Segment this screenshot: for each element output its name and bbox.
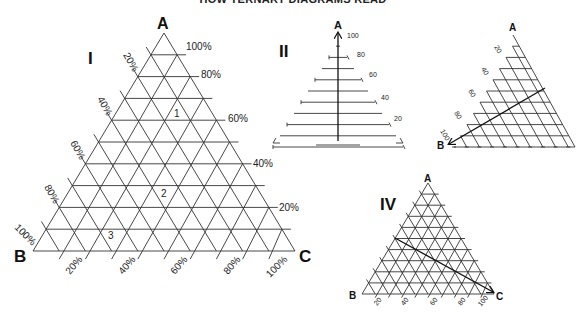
ii-tick-20: 20 <box>394 115 402 122</box>
grid-line <box>164 142 230 259</box>
ii-tick-100: 100 <box>347 32 359 39</box>
b-tick-20: 20% <box>121 51 141 74</box>
point-3: 3 <box>108 230 114 241</box>
grid-line <box>388 205 441 297</box>
c-tick-20: 20% <box>63 254 84 276</box>
iv-tick-80: 80 <box>456 296 466 307</box>
grid-line <box>400 138 403 143</box>
ii-tick-60: 60 <box>369 71 377 78</box>
grid-line <box>375 100 377 104</box>
ii-tick-80: 80 <box>357 51 365 58</box>
grid-line <box>419 191 480 294</box>
grid-line <box>94 134 164 251</box>
panel-iii: A B 20 40 60 80 100 <box>437 22 575 151</box>
grid-line <box>403 145 405 149</box>
point-1: 1 <box>174 108 180 119</box>
panel-i-label: I <box>88 49 93 68</box>
panel-iv-vertex-a: A <box>424 173 431 184</box>
grid-line <box>400 224 442 294</box>
iii-tick-80: 80 <box>453 110 463 120</box>
grid-line <box>68 178 112 251</box>
b-tick-100: 100% <box>13 222 39 248</box>
grid-line <box>41 221 59 251</box>
panel-iv: IV A B C 20 40 60 80 100 <box>349 173 503 308</box>
vertex-c-label: C <box>299 247 311 266</box>
grid-line <box>273 138 276 143</box>
panel-iv-vertex-b: B <box>349 290 356 301</box>
grid-line <box>361 78 363 82</box>
grid-line <box>513 46 569 147</box>
grid-line <box>413 202 468 294</box>
panel-i: I A B C 100% 80% 60% 40% 20% 20% 40% 60%… <box>13 15 312 279</box>
grid-line <box>367 279 376 294</box>
b-tick-40: 40% <box>95 95 115 118</box>
a-tick-60: 60% <box>228 113 248 124</box>
panel-iii-vertex-a: A <box>509 22 516 33</box>
iv-tick-100: 100 <box>476 294 489 308</box>
a-tick-20: 20% <box>279 202 299 213</box>
panel-iv-label: IV <box>380 195 397 214</box>
vertex-b-label: B <box>14 247 26 266</box>
grid-line <box>380 257 402 294</box>
ii-tick-40: 40 <box>381 94 389 101</box>
iii-tick-60: 60 <box>467 88 477 98</box>
iv-tick-60: 60 <box>428 296 438 307</box>
grid-line <box>107 112 190 251</box>
panel-iii-vertex-b: B <box>437 140 444 151</box>
grid-line <box>428 239 461 298</box>
point-2: 2 <box>161 188 167 199</box>
a-tick-80: 80% <box>201 69 221 80</box>
grid-line <box>138 120 217 259</box>
grid-line <box>112 98 204 259</box>
ternary-diagrams-figure: I A B C 100% 80% 60% 40% 20% 20% 40% 60%… <box>0 0 586 319</box>
b-tick-60: 60% <box>68 139 88 162</box>
iv-tick-40: 40 <box>399 296 409 307</box>
panel-ii-vertex-a: A <box>334 19 342 31</box>
b-tick-80: 80% <box>42 183 62 206</box>
grid-line <box>500 69 543 147</box>
a-tick-40: 40% <box>253 158 273 169</box>
c-tick-40: 40% <box>116 254 137 276</box>
grid-line <box>402 216 448 297</box>
panel-ii: II A 100 80 60 40 20 <box>273 19 405 149</box>
panel-ii-label: II <box>279 42 288 61</box>
grid-line <box>389 123 391 127</box>
grid-line <box>190 164 242 259</box>
grid-line <box>393 235 428 294</box>
a-tick-100: 100% <box>186 41 212 52</box>
c-tick-80: 80% <box>221 254 242 276</box>
panel-iv-vertex-c: C <box>496 291 503 302</box>
iv-tick-20: 20 <box>372 296 382 307</box>
iii-tick-20: 20 <box>493 44 503 54</box>
grid-line <box>133 69 242 251</box>
c-tick-100: 100% <box>264 253 290 279</box>
grid-line <box>347 55 349 59</box>
iii-tick-40: 40 <box>480 66 490 76</box>
c-tick-60: 60% <box>168 254 189 276</box>
vertex-a-label: A <box>157 15 169 32</box>
